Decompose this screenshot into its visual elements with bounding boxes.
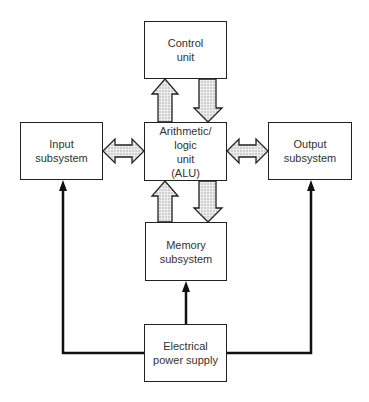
input-alu-bidirectional-arrow	[103, 139, 144, 163]
output-subsystem-block: Output subsystem	[268, 122, 352, 180]
power-supply-label: Electrical power supply	[153, 339, 218, 367]
alu-to-control-arrow	[152, 79, 178, 122]
alu-label: Arithmetic/ logic unit (ALU)	[160, 124, 212, 180]
control-to-alu-arrow	[194, 79, 222, 122]
input-subsystem-label: Input subsystem	[35, 137, 88, 165]
memory-subsystem-block: Memory subsystem	[145, 222, 227, 281]
power-supply-block: Electrical power supply	[144, 324, 227, 382]
alu-to-memory-arrow	[194, 181, 222, 222]
memory-subsystem-label: Memory subsystem	[160, 238, 213, 266]
output-subsystem-label: Output subsystem	[284, 137, 337, 165]
control-unit-label: Control unit	[168, 36, 203, 64]
memory-to-alu-arrow	[152, 181, 178, 222]
control-unit-block: Control unit	[144, 21, 227, 79]
input-subsystem-block: Input subsystem	[20, 122, 103, 180]
alu-block: Arithmetic/ logic unit (ALU)	[144, 122, 227, 181]
alu-output-bidirectional-arrow	[227, 139, 268, 163]
